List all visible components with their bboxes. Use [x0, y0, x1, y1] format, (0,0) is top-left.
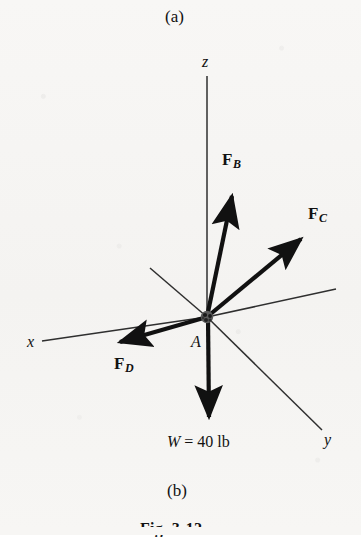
weight-symbol: W	[167, 433, 180, 450]
force-label-fd: FD	[114, 355, 134, 374]
axis-label-z: z	[202, 54, 208, 70]
point-label-a: A	[191, 334, 201, 350]
part-label-b: (b)	[167, 482, 187, 499]
weight-equals: =	[184, 433, 193, 450]
weight-unit: lb	[217, 433, 229, 450]
weight-value: 40	[197, 433, 213, 450]
x-axis-line-negative	[150, 268, 207, 317]
force-subscript-fb: B	[232, 157, 241, 171]
force-label-fc: FC	[308, 205, 327, 224]
force-symbol-fc: F	[308, 204, 318, 223]
axis-label-y: y	[324, 432, 331, 448]
force-symbol-fd: F	[114, 354, 124, 373]
x-axis-line	[42, 317, 207, 341]
force-subscript-fd: D	[124, 361, 133, 375]
force-vectors	[120, 196, 301, 417]
force-label-fb: FB	[222, 151, 241, 170]
figure-caption: Fig. 3-12	[140, 521, 202, 537]
weight-label: W = 40 lb	[167, 434, 230, 450]
axis-label-x: x	[27, 334, 34, 350]
part-label-a: (a)	[165, 8, 184, 25]
axis-lines	[42, 76, 336, 430]
y-axis-line	[207, 317, 322, 430]
force-subscript-fc: C	[318, 211, 327, 225]
force-symbol-fb: F	[222, 150, 232, 169]
weight-vector-w	[208, 317, 209, 417]
origin-node-a	[201, 311, 213, 323]
